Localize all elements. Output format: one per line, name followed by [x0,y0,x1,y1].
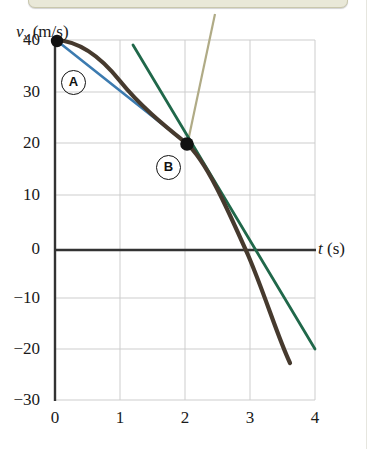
point-label-b: B [156,155,181,180]
page-edge-artifact [366,0,367,449]
y-tick-20: 20 [0,133,40,153]
x-tick-2: 2 [170,408,200,428]
grid-vertical [120,40,315,400]
point-label-a: A [61,70,86,95]
x-axis-units: (s) [323,239,345,258]
x-tick-1: 1 [105,408,135,428]
velocity-curve [56,40,290,363]
y-tick-40: 40 [0,30,40,50]
plot-svg [0,0,373,449]
x-tick-3: 3 [235,408,265,428]
figure-canvas: vx (m/s) t (s) 40 30 20 10 0 −10 −20 −30… [0,0,373,449]
y-tick-neg30: −30 [0,390,40,410]
y-tick-0: 0 [0,239,40,259]
data-point-b [180,137,194,151]
y-tick-neg10: −10 [0,288,40,308]
y-tick-30: 30 [0,82,40,102]
x-tick-4: 4 [300,408,330,428]
x-axis-title: t (s) [318,239,345,259]
callout-leader-line [187,14,215,146]
tangent-line-green [133,45,315,349]
y-tick-10: 10 [0,185,40,205]
x-tick-0: 0 [40,408,70,428]
y-tick-neg20: −20 [0,339,40,359]
